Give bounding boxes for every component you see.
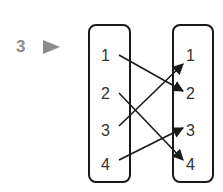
mapping-diagram: 1 2 3 4 1 2 3 4 (0, 0, 223, 192)
codomain-label-4: 4 (186, 156, 195, 173)
codomain-label-1: 1 (186, 47, 195, 64)
codomain-label-2: 2 (186, 85, 195, 102)
domain-label-1: 1 (101, 47, 110, 64)
codomain-label-3: 3 (186, 122, 195, 139)
domain-label-4: 4 (101, 156, 110, 173)
domain-label-3: 3 (101, 122, 110, 139)
domain-label-2: 2 (101, 85, 110, 102)
